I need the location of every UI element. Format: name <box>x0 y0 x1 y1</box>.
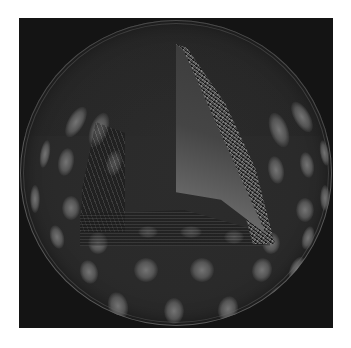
render-frame <box>19 18 333 328</box>
surface-blob <box>164 298 184 324</box>
surface-blob <box>30 185 40 213</box>
surface-blob <box>296 198 314 222</box>
surface-blob <box>320 185 330 211</box>
surface-blob <box>190 258 214 282</box>
surface-blob <box>62 196 80 220</box>
surface-blob <box>134 258 158 282</box>
sphere-render <box>20 20 332 326</box>
